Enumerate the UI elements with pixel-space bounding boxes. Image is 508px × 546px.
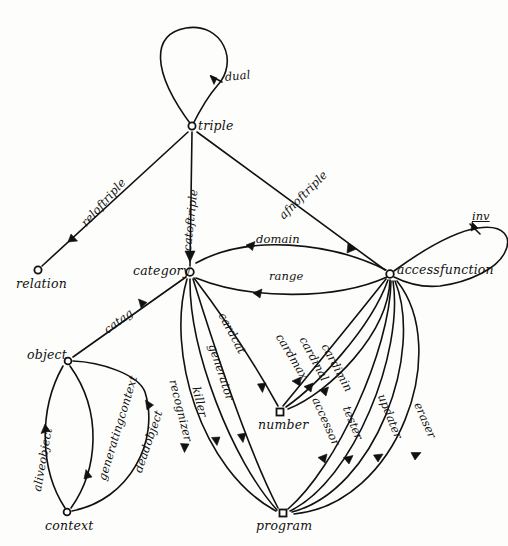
edge-label-range: range xyxy=(269,269,303,283)
edge-recognizer-arrowhead xyxy=(181,444,190,453)
edge-label-dual: dual xyxy=(224,67,251,84)
node-label-number: number xyxy=(258,417,309,432)
diagram-canvas: triple relation category accessfunction … xyxy=(0,0,508,546)
node-number[interactable] xyxy=(277,409,284,416)
node-label-context: context xyxy=(45,518,93,533)
node-label-program: program xyxy=(256,518,312,533)
node-label-relation: relation xyxy=(16,276,67,291)
edge-inv xyxy=(394,227,508,286)
edge-range-arrowhead xyxy=(253,289,262,298)
edge-afnoftriple-arrowhead xyxy=(347,243,357,253)
node-program[interactable] xyxy=(280,510,287,517)
edge-eraser-arrowhead xyxy=(411,453,421,461)
node-label-accessfunction: accessfunction xyxy=(397,262,494,277)
node-triple[interactable] xyxy=(188,122,195,129)
edge-catoftriple-arrowhead xyxy=(185,251,195,262)
edge-catag-arrowhead xyxy=(139,299,148,308)
edge-domain-arrowhead xyxy=(246,242,255,251)
node-label-category: category xyxy=(133,263,190,278)
edge-generator-arrowhead xyxy=(238,433,247,443)
edge-domain xyxy=(196,245,386,270)
edge-dual xyxy=(160,27,227,126)
edge-accessor-arrowhead xyxy=(318,454,327,463)
edge-generatingcontext xyxy=(70,366,93,508)
node-relation[interactable] xyxy=(34,266,41,273)
node-label-object: object xyxy=(27,347,67,362)
edge-label-domain: domain xyxy=(256,232,300,246)
edge-cardcat-arrowhead xyxy=(258,383,267,393)
node-label-triple: triple xyxy=(198,118,234,133)
node-context[interactable] xyxy=(64,509,71,516)
edge-label-inv: inv xyxy=(472,209,490,223)
node-accessfunction[interactable] xyxy=(386,270,394,278)
